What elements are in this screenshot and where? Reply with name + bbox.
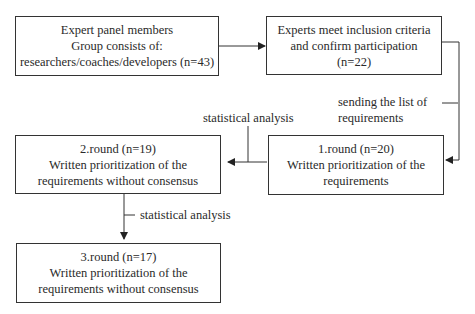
node-line: Written prioritization of the bbox=[287, 157, 425, 173]
node-line: requirements without consensus bbox=[38, 173, 198, 189]
node-round-1: 1.round (n=20) Written prioritization of… bbox=[268, 135, 444, 195]
node-line: Group consists of: bbox=[71, 38, 163, 54]
node-inclusion-criteria: Experts meet inclusion criteria and conf… bbox=[266, 16, 442, 75]
node-round-2: 2.round (n=19) Written prioritization of… bbox=[15, 135, 221, 194]
edge-label-line: requirements bbox=[338, 110, 427, 126]
node-line: researchers/coaches/developers (n=43) bbox=[20, 54, 214, 70]
node-line: (n=22) bbox=[337, 54, 371, 70]
edge-label-stat-1: statistical analysis bbox=[203, 110, 294, 126]
node-line: Experts meet inclusion criteria bbox=[277, 22, 430, 38]
edge-label-stat-2: statistical analysis bbox=[140, 207, 231, 223]
node-line: and confirm participation bbox=[290, 38, 417, 54]
node-line: Expert panel members bbox=[61, 22, 173, 38]
node-line: requirements without consensus bbox=[38, 281, 198, 297]
edge-label-sending: sending the list of requirements bbox=[338, 94, 427, 126]
edge-label-line: sending the list of bbox=[338, 94, 427, 110]
node-line: requirements bbox=[323, 173, 388, 189]
node-line: 2.round (n=19) bbox=[80, 141, 156, 157]
node-line: Written prioritization of the bbox=[49, 157, 187, 173]
node-line: 1.round (n=20) bbox=[318, 141, 394, 157]
node-line: Written prioritization of the bbox=[50, 265, 188, 281]
node-expert-panel: Expert panel members Group consists of: … bbox=[15, 16, 219, 76]
node-round-3: 3.round (n=17) Written prioritization of… bbox=[16, 243, 221, 303]
node-line: 3.round (n=17) bbox=[81, 249, 157, 265]
